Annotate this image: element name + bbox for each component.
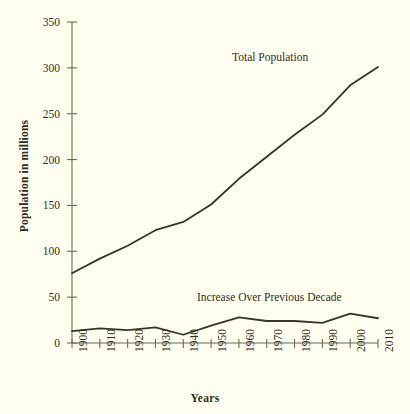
- x-axis-title: Years: [0, 392, 410, 404]
- x-tick-label: 2000: [355, 329, 367, 352]
- x-tick-label: 1970: [272, 329, 284, 352]
- series-label-increase-over-previous-decade: Increase Over Previous Decade: [197, 291, 342, 303]
- y-tick-label: 100: [20, 245, 60, 257]
- chart-plot-area: [0, 0, 410, 414]
- x-tick-label: 1920: [133, 329, 145, 352]
- series-label-total-population: Total Population: [232, 51, 308, 63]
- x-tick-label: 1910: [105, 329, 117, 352]
- x-tick-label: 1960: [244, 329, 256, 352]
- y-tick-label: 250: [20, 108, 60, 120]
- y-tick-label: 350: [20, 16, 60, 28]
- y-tick-label: 0: [20, 337, 60, 349]
- series-line: [72, 67, 378, 273]
- x-tick-label: 2010: [383, 329, 395, 352]
- x-tick-label: 1980: [300, 329, 312, 352]
- y-tick-label: 200: [20, 154, 60, 166]
- x-tick-label: 1950: [216, 329, 228, 352]
- x-tick-label: 1990: [327, 329, 339, 352]
- x-tick-label: 1940: [188, 329, 200, 352]
- y-tick-label: 50: [20, 291, 60, 303]
- y-tick-label: 300: [20, 62, 60, 74]
- x-tick-label: 1930: [160, 329, 172, 352]
- x-tick-label: 1900: [77, 329, 89, 352]
- population-line-chart: Population in millions Years 05010015020…: [0, 0, 410, 414]
- y-tick-label: 150: [20, 199, 60, 211]
